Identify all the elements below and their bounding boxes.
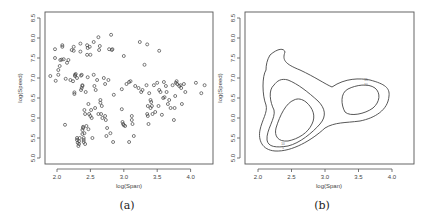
contour-level-inner-right <box>342 85 379 114</box>
data-point <box>164 85 167 88</box>
data-point <box>97 36 100 39</box>
data-point <box>87 128 90 131</box>
y-tick-label: 6.0 <box>30 113 36 122</box>
data-point <box>131 123 134 126</box>
data-point <box>72 45 75 48</box>
data-point <box>104 115 107 118</box>
data-point <box>146 113 149 116</box>
data-point <box>138 41 141 44</box>
data-point <box>180 103 183 106</box>
data-point <box>148 92 151 95</box>
data-point <box>134 85 137 88</box>
data-point <box>109 132 112 135</box>
data-point <box>64 77 67 80</box>
data-point <box>100 105 103 108</box>
data-point <box>166 103 169 106</box>
data-point <box>130 119 133 122</box>
x-axis-label-a: log(Span) <box>116 183 142 189</box>
x-axis-b: 2.02.53.03.54.0 <box>254 169 397 180</box>
data-point <box>203 84 206 87</box>
data-point <box>89 53 92 56</box>
data-point <box>86 76 89 79</box>
y-axis-a: 5.05.56.06.57.07.58.08.5 <box>30 13 40 162</box>
x-tick-label: 3.5 <box>354 174 363 180</box>
x-tick-label: 4.0 <box>388 174 397 180</box>
plot-frame-a <box>45 12 213 164</box>
density-contours: 15 10 10 5 <box>260 49 390 151</box>
data-point <box>57 69 60 72</box>
data-point <box>194 81 197 84</box>
x-axis-label-b: log(Span) <box>316 183 342 189</box>
data-point <box>162 81 165 84</box>
data-point <box>143 63 146 66</box>
data-point <box>90 109 93 112</box>
y-tick-label: 7.5 <box>30 53 36 62</box>
contour-level-outer <box>260 49 390 151</box>
data-point <box>157 105 160 108</box>
data-point <box>174 95 177 98</box>
data-point <box>171 84 174 87</box>
y-tick-label: 8.0 <box>30 33 36 42</box>
data-point <box>168 99 171 102</box>
data-point <box>94 107 97 110</box>
data-point <box>92 41 95 44</box>
data-point <box>146 105 149 108</box>
caption-a: (a) <box>119 199 134 212</box>
data-point <box>79 50 82 53</box>
y-tick-label: 5.5 <box>30 133 36 142</box>
data-point <box>101 117 104 120</box>
data-point <box>105 135 108 138</box>
data-point <box>102 77 105 80</box>
data-point <box>169 107 172 110</box>
data-point <box>173 107 176 110</box>
data-point <box>83 109 86 112</box>
data-point <box>84 91 87 94</box>
contour-level-inner-left <box>276 99 314 141</box>
y-tick-label: 7.0 <box>30 73 36 82</box>
data-point <box>104 119 107 122</box>
scatter-points <box>49 33 206 147</box>
data-point <box>92 73 95 76</box>
contour-label: 10 <box>364 83 368 87</box>
y-tick-label: 6.0 <box>230 113 236 122</box>
data-point <box>98 49 101 52</box>
contour-label: 15 <box>364 78 368 82</box>
data-point <box>104 83 107 86</box>
data-point <box>132 135 135 138</box>
data-point <box>121 121 124 124</box>
y-tick-label: 5.0 <box>230 153 236 162</box>
data-point <box>67 59 70 62</box>
data-point <box>84 113 87 116</box>
data-point <box>64 123 67 126</box>
y-axis-label-b: log(Speed) <box>217 73 223 102</box>
caption-b: (b) <box>314 199 330 212</box>
y-tick-label: 7.0 <box>230 73 236 82</box>
data-point <box>49 75 52 78</box>
data-point <box>137 87 140 90</box>
data-point <box>54 48 57 51</box>
data-point <box>106 127 109 130</box>
data-point <box>146 115 149 118</box>
data-point <box>107 79 110 82</box>
x-tick-label: 2.0 <box>53 174 62 180</box>
data-point <box>94 89 97 92</box>
data-point <box>151 113 154 116</box>
figure: 2.02.53.03.54.0 5.05.56.06.57.07.58.08.5… <box>0 0 430 223</box>
x-tick-label: 3.5 <box>153 174 162 180</box>
data-point <box>110 33 113 36</box>
data-point <box>112 93 115 96</box>
data-point <box>152 84 155 87</box>
x-tick-label: 3.0 <box>120 174 129 180</box>
data-point <box>86 53 89 56</box>
y-tick-label: 5.0 <box>30 153 36 162</box>
data-point <box>76 77 79 80</box>
data-point <box>54 57 57 60</box>
data-point <box>182 83 185 86</box>
data-point <box>96 79 99 82</box>
contour-plot-panel-b: 2.02.53.03.54.0 5.05.56.06.57.07.58.08.5… <box>217 12 414 212</box>
data-point <box>172 119 175 122</box>
data-point <box>160 113 163 116</box>
y-axis-label-a: log(Speed) <box>17 73 23 102</box>
data-point <box>147 123 150 126</box>
plot-frame-b <box>245 12 414 164</box>
